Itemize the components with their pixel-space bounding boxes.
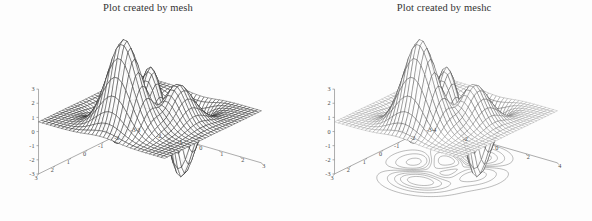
axis-tick-label: 3 (35, 174, 38, 181)
axis-tick-label: -2 (114, 134, 119, 141)
axis-tick-label: 2 (327, 99, 330, 106)
axis-tick-label: -1 (394, 142, 399, 149)
axis-tick-label: 1 (363, 158, 366, 165)
axis-tick-label: 0 (83, 150, 86, 157)
axis-tick-label: -1 (29, 142, 34, 149)
axis-tick-label: 0 (31, 128, 34, 135)
axis-tick-label: -2 (156, 132, 161, 139)
axis-tick-label: 0 (199, 144, 202, 151)
axis-tick-label: 1 (327, 114, 330, 121)
plot-title-mesh: Plot created by mesh (0, 2, 296, 13)
axis-tick-label: -1 (98, 142, 103, 149)
surface-plot-meshc: 3210-1-2-33210-1-2-3-4-2024 (296, 14, 592, 221)
axis-tick-label: 2 (51, 166, 54, 173)
axis-tick-label: -2 (29, 156, 34, 163)
plot-panel-mesh: Plot created by mesh 3210-1-2-33210-1-2-… (0, 0, 296, 221)
axis-tick-label: 4 (558, 162, 561, 169)
axis-tick-label: 3 (31, 85, 34, 92)
axis-tick-label: 0 (327, 128, 330, 135)
axis-tick-label: -1 (325, 142, 330, 149)
axis-tick-label: 2 (347, 166, 350, 173)
axis-tick-label: 3 (331, 174, 334, 181)
axis-tick-label: 2 (241, 156, 244, 163)
axis-tick-label: 2 (31, 99, 34, 106)
axis-tick-label: 1 (31, 114, 34, 121)
axis-tick-label: 3 (262, 162, 265, 169)
surface-plot-mesh: 3210-1-2-33210-1-2-3-3-2-10123 (0, 14, 296, 221)
axis-tick-label: -2 (325, 156, 330, 163)
axis-tick-label: -3 (135, 126, 140, 133)
axis-tick-label: -2 (410, 134, 415, 141)
mesh-wireframe (39, 40, 262, 177)
plot-title-meshc: Plot created by meshc (296, 2, 592, 13)
axis-tick-label: 1 (220, 150, 223, 157)
axis-tick-label: -4 (431, 126, 436, 133)
axis-tick-label: 3 (327, 85, 330, 92)
axis-tick-label: -2 (463, 135, 468, 142)
figure-canvas: Plot created by mesh 3210-1-2-33210-1-2-… (0, 0, 592, 221)
axis-tick-label: 0 (495, 144, 498, 151)
plot-panel-meshc: Plot created by meshc 3210-1-2-33210-1-2… (296, 0, 592, 221)
axis-tick-label: 2 (527, 153, 530, 160)
axis-tick-label: 1 (67, 158, 70, 165)
axis-tick-label: -1 (177, 138, 182, 145)
axis-tick-label: 0 (379, 150, 382, 157)
